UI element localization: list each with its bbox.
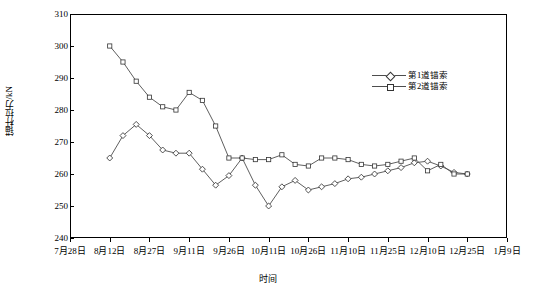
data-point: [121, 60, 125, 64]
data-point: [319, 184, 325, 190]
data-point: [240, 156, 244, 160]
data-point: [425, 169, 429, 173]
data-point: [386, 162, 390, 166]
data-point: [320, 156, 324, 160]
data-point: [465, 172, 469, 176]
data-point: [107, 155, 113, 161]
data-point: [187, 90, 191, 94]
legend-item-series-1: 第1道锚索: [372, 70, 448, 81]
data-point: [385, 168, 391, 174]
data-point: [372, 171, 378, 177]
data-point: [306, 164, 310, 168]
data-point: [425, 158, 431, 164]
data-point: [161, 105, 165, 109]
legend: 第1道锚索 第2道锚索: [372, 70, 448, 92]
data-point: [267, 158, 271, 162]
data-point: [108, 44, 112, 48]
data-point: [346, 158, 350, 162]
series-layer: [0, 0, 536, 295]
data-point: [372, 164, 376, 168]
data-point: [412, 156, 416, 160]
data-point: [147, 95, 151, 99]
data-point: [252, 182, 258, 188]
legend-item-series-2: 第2道锚索: [372, 81, 448, 92]
data-point: [280, 153, 284, 157]
data-point: [358, 174, 364, 180]
data-point: [332, 181, 338, 187]
data-point: [200, 98, 204, 102]
data-point: [292, 177, 298, 183]
data-point: [253, 158, 257, 162]
data-point: [227, 156, 231, 160]
data-point: [279, 184, 285, 190]
data-point: [452, 172, 456, 176]
chart-container: 锚杆拉力/kN 时间 240250260270280290300310 7月28…: [0, 0, 536, 295]
legend-swatch-diamond: [372, 71, 406, 81]
data-point: [399, 159, 403, 163]
data-point: [174, 108, 178, 112]
data-point: [439, 162, 443, 166]
data-point: [411, 160, 417, 166]
data-point: [266, 203, 272, 209]
data-point: [214, 124, 218, 128]
data-point: [305, 187, 311, 193]
legend-swatch-square: [372, 82, 406, 92]
legend-label-series-2: 第2道锚索: [408, 81, 448, 92]
data-point: [173, 150, 179, 156]
data-point: [359, 162, 363, 166]
data-point: [293, 162, 297, 166]
series-line-2: [110, 46, 468, 174]
data-point: [345, 176, 351, 182]
legend-label-series-1: 第1道锚索: [408, 70, 448, 81]
data-point: [134, 79, 138, 83]
data-point: [398, 165, 404, 171]
data-point: [333, 156, 337, 160]
